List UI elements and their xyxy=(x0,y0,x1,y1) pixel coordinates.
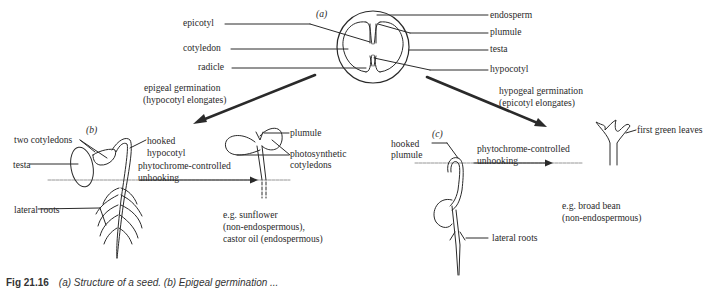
panel-b-tag: (b) xyxy=(86,124,97,135)
label-plumule-b: plumule xyxy=(290,127,321,138)
label-hooked-plumule-1: hooked xyxy=(391,138,419,149)
label-testa-b: testa xyxy=(13,159,31,170)
label-lateral-roots-b: lateral roots xyxy=(14,204,60,215)
label-lateral-roots-c: lateral roots xyxy=(492,232,538,243)
label-hooked-hypocotyl-2: hypocotyl xyxy=(147,147,185,158)
label-phytochrome-b: phytochrome-controlled xyxy=(138,160,231,171)
hypogeal-title: hypogeal germination xyxy=(499,85,583,96)
example-non-endospermous-c: (non-endospermous) xyxy=(562,212,641,223)
epigeal-unhooked-seedling-drawing xyxy=(225,128,290,198)
label-cotyledon: cotyledon xyxy=(183,42,221,53)
label-unhooking-c: unhooking xyxy=(477,155,518,166)
caption-text: (a) Structure of a seed. (b) Epigeal ger… xyxy=(59,277,279,288)
example-castor-oil: castor oil (endospermous) xyxy=(223,233,323,244)
label-plumule: plumule xyxy=(490,26,521,37)
label-endosperm: endosperm xyxy=(490,9,532,20)
example-sunflower: e.g. sunflower xyxy=(223,209,278,220)
caption-number: Fig 21.16 xyxy=(6,277,49,288)
panel-c-tag: (c) xyxy=(432,128,443,139)
epigeal-subtitle: (hypocotyl elongates) xyxy=(143,94,226,105)
label-testa: testa xyxy=(490,43,508,54)
label-phytochrome-c: phytochrome-controlled xyxy=(477,143,570,154)
epigeal-title: epigeal germination xyxy=(144,82,220,93)
label-cotyledons-b: cotyledons xyxy=(290,159,332,170)
label-epicotyl: epicotyl xyxy=(183,17,214,28)
hypogeal-unhooked-seedling-drawing xyxy=(596,120,636,165)
example-non-endospermous: (non-endospermous), xyxy=(223,221,305,232)
example-broad-bean: e.g. broad bean xyxy=(562,200,621,211)
label-first-green-leaves: first green leaves xyxy=(637,124,703,135)
label-hooked-plumule-2: plumule xyxy=(391,149,422,160)
label-hooked-hypocotyl-1: hooked xyxy=(147,135,175,146)
label-radicle: radicle xyxy=(198,61,224,72)
label-hypocotyl: hypocotyl xyxy=(490,63,528,74)
label-photosynthetic: photosynthetic xyxy=(290,148,347,159)
label-unhooking-b: unhooking xyxy=(138,172,179,183)
hypogeal-subtitle: (epicotyl elongates) xyxy=(499,97,575,108)
seed-structure-drawing xyxy=(225,11,488,83)
panel-a-tag: (a) xyxy=(316,8,327,19)
label-two-cotyledons: two cotyledons xyxy=(14,134,72,145)
figure-caption: Fig 21.16(a) Structure of a seed. (b) Ep… xyxy=(6,277,278,288)
